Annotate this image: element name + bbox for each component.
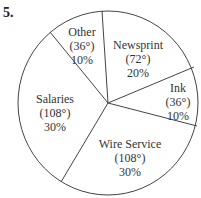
slice-label-newsprint: Newsprint (72°) 20% xyxy=(113,38,163,80)
slice-percent: 20% xyxy=(113,66,163,80)
slice-label-wire-service: Wire Service (108°) 30% xyxy=(99,137,161,179)
slice-label-other: Other (36°) 10% xyxy=(68,25,95,67)
slice-label-ink: Ink (36°) 10% xyxy=(166,81,191,123)
slice-degrees: (108°) xyxy=(36,106,74,120)
slice-percent: 10% xyxy=(166,109,191,123)
slice-name: Salaries xyxy=(36,92,74,106)
slice-degrees: (36°) xyxy=(166,95,191,109)
slice-degrees: (36°) xyxy=(68,39,95,53)
slice-percent: 30% xyxy=(99,165,161,179)
slice-percent: 10% xyxy=(68,53,95,67)
slice-degrees: (108°) xyxy=(99,151,161,165)
slice-percent: 30% xyxy=(36,120,74,134)
slice-degrees: (72°) xyxy=(113,52,163,66)
slice-name: Wire Service xyxy=(99,137,161,151)
slice-label-salaries: Salaries (108°) 30% xyxy=(36,92,74,134)
slice-name: Other xyxy=(68,25,95,39)
slice-name: Ink xyxy=(166,81,191,95)
slice-name: Newsprint xyxy=(113,38,163,52)
